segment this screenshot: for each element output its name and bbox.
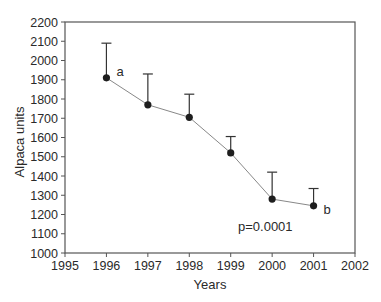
line-chart: 19951996199719981999200020012002 1000110…	[0, 0, 381, 302]
data-point	[186, 114, 193, 121]
x-tick-label: 1998	[175, 259, 203, 273]
y-tick-label: 1900	[30, 73, 58, 87]
y-tick-label: 1200	[30, 208, 58, 222]
series-line	[106, 78, 313, 206]
y-tick-label: 1500	[30, 150, 58, 164]
y-axis-title: Alpaca units	[12, 106, 27, 177]
x-tick-label: 2001	[300, 259, 328, 273]
y-axis: 1000110012001300140015001600170018001900…	[30, 16, 65, 261]
x-axis-title: Years	[194, 277, 227, 292]
y-tick-label: 1700	[30, 112, 58, 126]
y-tick-label: 2200	[30, 16, 58, 30]
data-point	[144, 101, 151, 108]
y-tick-label: 1400	[30, 170, 58, 184]
x-tick-label: 1996	[93, 259, 121, 273]
y-tick-label: 2000	[30, 54, 58, 68]
data-point	[269, 196, 276, 203]
x-tick-label: 2002	[341, 259, 369, 273]
y-tick-label: 1100	[31, 227, 58, 241]
x-tick-label: 1995	[51, 259, 79, 273]
y-tick-label: 1300	[30, 189, 58, 203]
annotations: abp=0.0001	[116, 64, 330, 234]
x-tick-label: 2000	[258, 259, 286, 273]
data-point	[310, 202, 317, 209]
data-point	[103, 74, 110, 81]
p-value-annotation: p=0.0001	[238, 219, 293, 234]
y-tick-label: 1000	[30, 247, 58, 261]
y-tick-label: 2100	[30, 35, 58, 49]
group-label-annotation: b	[324, 202, 331, 217]
x-tick-label: 1997	[134, 259, 162, 273]
data-point	[227, 149, 234, 156]
data-series	[101, 43, 318, 209]
group-label-annotation: a	[116, 64, 124, 79]
y-tick-label: 1600	[30, 131, 58, 145]
plot-frame	[65, 22, 355, 253]
x-axis: 19951996199719981999200020012002	[51, 253, 369, 273]
x-tick-label: 1999	[217, 259, 245, 273]
y-tick-label: 1800	[30, 93, 58, 107]
